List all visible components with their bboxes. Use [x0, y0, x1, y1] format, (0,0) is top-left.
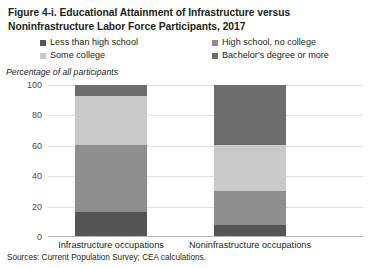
y-axis-tick-label-60: 60	[32, 141, 42, 151]
bar-segment[interactable]	[214, 225, 286, 236]
x-axis-label-infrastructure: Infrastructure occupations	[58, 240, 164, 250]
bar-segment[interactable]	[75, 85, 147, 96]
legend-item-bachelors-or-more: Bachelor's degree or more	[212, 50, 362, 61]
figure-title: Figure 4-i. Educational Attainment of In…	[8, 6, 366, 33]
legend-swatch-icon-less-than-high-school	[40, 40, 46, 46]
bar-segment[interactable]	[75, 145, 147, 211]
figure-container: Figure 4-i. Educational Attainment of In…	[0, 0, 373, 268]
stacked-bar-infrastructure[interactable]: Infrastructure occupations	[75, 85, 147, 236]
legend-swatch-icon-high-school-no-college	[212, 40, 218, 46]
figure-title-line-2: Noninfrastructure Labor Force Participan…	[8, 20, 366, 34]
x-axis-label-noninfrastructure: Noninfrastructure occupations	[189, 240, 311, 250]
x-axis-line	[48, 236, 363, 237]
y-axis-tick-label-100: 100	[27, 80, 42, 90]
y-axis-tick-label-80: 80	[32, 110, 42, 120]
bar-segment[interactable]	[214, 85, 286, 145]
stacked-bar-noninfrastructure[interactable]: Noninfrastructure occupations	[214, 85, 286, 236]
chart-legend: Less than high school High school, no co…	[40, 36, 360, 62]
y-axis-tick-label-0: 0	[37, 232, 42, 242]
y-axis-tick-label-40: 40	[32, 171, 42, 181]
y-axis-tick-label-20: 20	[32, 202, 42, 212]
legend-swatch-icon-bachelors-or-more	[212, 53, 218, 59]
bar-segment[interactable]	[214, 145, 286, 190]
legend-label-less-than-high-school: Less than high school	[50, 37, 138, 48]
legend-label-bachelors-or-more: Bachelor's degree or more	[222, 50, 329, 61]
bar-segment[interactable]	[214, 191, 286, 226]
figure-title-line-1: Figure 4-i. Educational Attainment of In…	[8, 6, 366, 20]
legend-swatch-icon-some-college	[40, 53, 46, 59]
y-axis-unit-note: Percentage of all participants	[6, 67, 118, 77]
plot-area: 020406080100 Infrastructure occupations …	[48, 85, 363, 237]
legend-label-high-school-no-college: High school, no college	[222, 37, 316, 48]
legend-item-less-than-high-school: Less than high school	[40, 37, 212, 48]
bar-segment[interactable]	[75, 96, 147, 146]
source-note: Sources: Current Population Survey; CEA …	[7, 253, 206, 262]
bar-segment[interactable]	[75, 212, 147, 236]
legend-item-some-college: Some college	[40, 50, 212, 61]
legend-item-high-school-no-college: High school, no college	[212, 37, 362, 48]
legend-label-some-college: Some college	[50, 50, 105, 61]
